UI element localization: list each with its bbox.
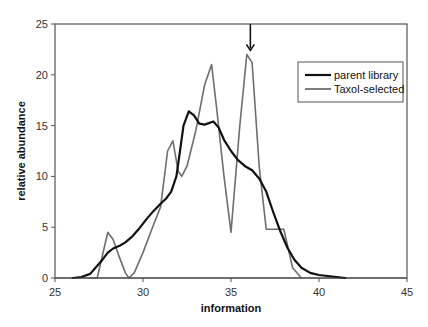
legend: parent library Taxol-selected — [298, 62, 404, 102]
y-tick-label: 25 — [36, 18, 48, 30]
line-chart: 0510152025 2530354045 information relati… — [0, 0, 428, 327]
x-tick-label: 25 — [49, 286, 61, 298]
x-axis: 2530354045 — [49, 278, 413, 298]
x-tick-label: 45 — [401, 286, 413, 298]
x-tick-label: 35 — [225, 286, 237, 298]
y-tick-label: 5 — [42, 221, 48, 233]
x-tick-label: 30 — [137, 286, 149, 298]
y-tick-label: 0 — [42, 272, 48, 284]
legend-label-taxol-selected: Taxol-selected — [334, 83, 404, 95]
legend-label-parent-library: parent library — [334, 69, 399, 81]
x-tick-label: 40 — [313, 286, 325, 298]
x-axis-title: information — [201, 302, 262, 314]
y-axis: 0510152025 — [36, 18, 55, 284]
y-tick-label: 10 — [36, 170, 48, 182]
y-axis-title: relative abundance — [15, 101, 27, 201]
y-tick-label: 20 — [36, 69, 48, 81]
y-tick-label: 15 — [36, 120, 48, 132]
legend-box — [298, 62, 403, 102]
